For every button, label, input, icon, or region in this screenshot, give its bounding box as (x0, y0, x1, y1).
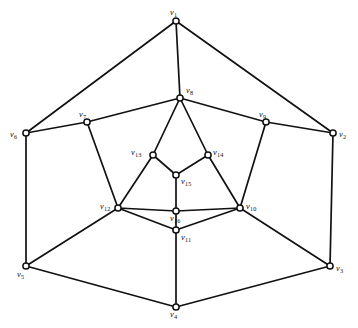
graph-edge-v6-v7 (26, 122, 87, 133)
node-label-v8: v8 (186, 86, 193, 95)
node-label-v1: v1 (170, 8, 177, 17)
graph-edge-v1-v6 (26, 21, 176, 133)
node-label-v12: v12 (100, 202, 110, 211)
node-label-v7: v7 (79, 110, 86, 119)
node-label-v5: v5 (17, 270, 24, 279)
graph-node-v5[interactable] (23, 263, 29, 269)
graph-edge-v9-v10 (240, 122, 266, 208)
node-label-v11: v11 (181, 233, 191, 242)
graph-node-v10[interactable] (237, 205, 243, 211)
graph-node-v12[interactable] (115, 205, 121, 211)
graph-figure: v1v2v3v4v5v6v7v8v9v10v11v12v13v14v15v16 (0, 0, 358, 328)
graph-node-v11[interactable] (173, 227, 179, 233)
graph-node-v14[interactable] (205, 152, 211, 158)
graph-edge-v8-v13 (153, 98, 180, 155)
graph-edge-v1-v2 (176, 21, 333, 133)
graph-edge-v1-v8 (176, 21, 180, 98)
node-label-v10: v10 (246, 202, 256, 211)
node-label-v6: v6 (10, 130, 17, 139)
graph-node-v8[interactable] (177, 95, 183, 101)
graph-node-v2[interactable] (330, 130, 336, 136)
graph-node-v6[interactable] (23, 130, 29, 136)
node-label-v15: v15 (181, 177, 191, 186)
node-label-v13: v13 (131, 148, 141, 157)
graph-edge-v13-v15 (153, 155, 176, 175)
node-label-v16: v16 (170, 214, 180, 223)
graph-edge-v2-v9 (266, 122, 333, 133)
graph-node-v3[interactable] (327, 263, 333, 269)
graph-edge-v3-v4 (176, 266, 330, 307)
graph-edge-v8-v9 (180, 98, 266, 122)
graph-edge-v3-v10 (240, 208, 330, 266)
node-layer (23, 18, 336, 310)
graph-edge-v4-v5 (26, 266, 176, 307)
graph-edge-v8-v14 (180, 98, 208, 155)
graph-node-v15[interactable] (173, 172, 179, 178)
graph-edge-v5-v12 (26, 208, 118, 266)
node-label-v2: v2 (339, 130, 346, 139)
graph-node-v13[interactable] (150, 152, 156, 158)
graph-edge-v7-v8 (87, 98, 180, 122)
graph-node-v1[interactable] (173, 18, 179, 24)
edge-layer (26, 21, 333, 307)
node-label-v9: v9 (259, 110, 266, 119)
graph-edge-v12-v13 (118, 155, 153, 208)
graph-edge-v7-v12 (87, 122, 118, 208)
graph-edge-v14-v15 (176, 155, 208, 175)
node-label-v4: v4 (170, 310, 177, 319)
node-label-v3: v3 (336, 264, 343, 273)
graph-edge-v10-v14 (208, 155, 240, 208)
graph-edge-v2-v3 (330, 133, 333, 266)
node-label-v14: v14 (213, 148, 223, 157)
graph-canvas (0, 0, 358, 328)
